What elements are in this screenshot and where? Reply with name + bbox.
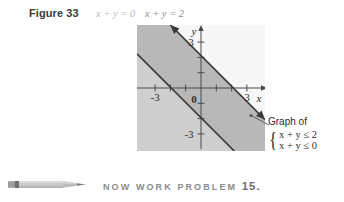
- graph-annotation: Graph of { x + y ≤ 2 x + y ≤ 0: [268, 116, 344, 151]
- x-tick-label-3: 3: [244, 91, 250, 103]
- x-tick-label--3: -3: [151, 91, 161, 103]
- y-tick-label-3: 3: [188, 36, 194, 48]
- brace-icon: {: [269, 133, 277, 146]
- equation-labels: x + y = 0 x + y = 2: [96, 8, 184, 19]
- x-tick-label-0: 0: [191, 93, 197, 105]
- graph-plot: -3 0 3 x 3 -3 y: [137, 25, 265, 151]
- x-axis-label: x: [256, 92, 262, 104]
- inequality-2: x + y ≤ 0: [279, 140, 317, 151]
- equation-label-line1: x + y = 0: [96, 8, 135, 19]
- figure-label: Figure 33: [29, 7, 79, 19]
- inequality-system: { x + y ≤ 2 x + y ≤ 0: [268, 129, 344, 151]
- now-work-problem-callout: NOW WORK PROBLEM 15.: [103, 180, 261, 192]
- now-work-text: NOW WORK PROBLEM: [103, 182, 237, 192]
- graph-svg: -3 0 3 x 3 -3 y: [137, 25, 265, 151]
- problem-number: 15.: [242, 180, 261, 192]
- annotation-title: Graph of: [268, 116, 344, 128]
- pencil-icon: [7, 178, 87, 191]
- y-tick-label--3: -3: [184, 128, 194, 140]
- inequality-1: x + y ≤ 2: [279, 129, 317, 140]
- y-axis-label: y: [191, 25, 197, 37]
- equation-label-line2: x + y = 2: [145, 8, 184, 19]
- inequality-list: x + y ≤ 2 x + y ≤ 0: [279, 129, 317, 151]
